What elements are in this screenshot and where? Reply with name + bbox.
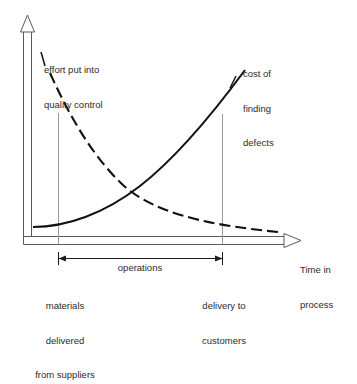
- label-delivery-line-1: delivery to: [180, 300, 268, 312]
- arrow-left-head-icon: [59, 256, 67, 262]
- x-axis-label: Time in process: [300, 241, 333, 333]
- x-axis-label-line-1: Time in: [300, 264, 333, 276]
- y-axis-shaft: [24, 31, 32, 244]
- arrow-right-outline-icon: [284, 234, 301, 248]
- arrow-right-head-icon: [215, 256, 223, 262]
- label-materials-line-1: materials: [18, 300, 112, 312]
- label-effort-line-2: quality control: [44, 99, 103, 111]
- label-operations: operations: [95, 262, 185, 274]
- arrow-up-outline-icon: [21, 15, 35, 32]
- x-axis: [24, 234, 302, 248]
- label-cost-line-1: cost of: [243, 68, 274, 80]
- label-cost-finding-defects: cost of finding defects: [243, 45, 274, 172]
- x-axis-shaft: [24, 237, 287, 245]
- label-cost-line-2: finding: [243, 103, 274, 115]
- label-materials-line-2: delivered: [18, 335, 112, 347]
- label-materials-line-3: from suppliers: [18, 369, 112, 381]
- label-cost-line-3: defects: [243, 137, 274, 149]
- x-axis-label-line-2: process: [300, 299, 333, 311]
- label-delivery-line-2: customers: [180, 335, 268, 347]
- label-delivery-to-customers: delivery to customers: [180, 277, 268, 369]
- label-effort-quality-control: effort put into quality control: [44, 41, 103, 133]
- label-effort-line-1: effort put into: [44, 64, 103, 76]
- y-axis: [21, 15, 35, 244]
- label-materials-delivered: materials delivered from suppliers: [18, 277, 112, 384]
